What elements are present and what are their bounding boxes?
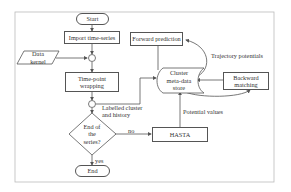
start-label: Start [87, 15, 99, 22]
no-edge-label: no [128, 127, 134, 134]
backward-matching-label: Backward matching [233, 74, 259, 89]
potential-values-edge-label: Potential values [183, 108, 223, 115]
hasta-label: HASTA [170, 131, 191, 138]
yes-edge-label: yes [95, 157, 103, 164]
forward-prediction-label: Forward prediction [132, 35, 180, 42]
forward-prediction-node: Forward prediction [130, 32, 183, 46]
data-kernel-node: Data kernel [19, 51, 57, 64]
hasta-node: HASTA [152, 127, 208, 142]
end-node: End [75, 165, 110, 177]
cluster-store-node: Cluster meta-data store [160, 68, 198, 93]
backward-matching-node: Backward matching [223, 72, 269, 90]
import-time-series-node: Import time-series [64, 31, 120, 44]
labelled-cluster-edge-label: Labelled cluster and history [102, 104, 142, 119]
time-point-wrapping-node: Time-point wrapping [65, 72, 119, 92]
decision-label: End of the series? [83, 123, 100, 145]
flowchart-lines [0, 0, 291, 192]
junction-merge-2 [89, 101, 96, 108]
import-label: Import time-series [69, 34, 115, 41]
start-node: Start [76, 13, 109, 25]
trajectory-potentials-edge-label: Trajectory potentials [211, 52, 263, 59]
junction-merge-1 [89, 55, 96, 62]
end-label: End [87, 167, 97, 174]
cluster-store-label: Cluster meta-data store [167, 69, 192, 91]
wrapping-label: Time-point wrapping [78, 75, 106, 90]
data-kernel-label: Data kernel [30, 50, 46, 65]
decision-node: End of the series? [72, 118, 112, 150]
